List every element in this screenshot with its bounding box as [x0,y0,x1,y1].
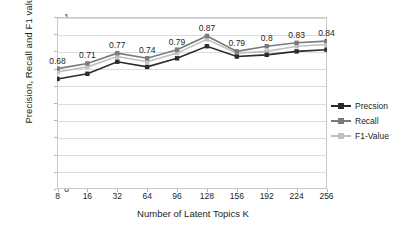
x-tick-mark [267,189,268,192]
data-point-marker [85,61,89,65]
data-point-marker [205,44,209,48]
data-label: 0.87 [199,23,216,33]
x-tick-label: 256 [307,191,347,201]
x-tick-mark [297,189,298,192]
data-point-marker [115,60,119,64]
data-point-marker [175,47,179,51]
data-point-marker [235,54,239,58]
legend-item-recall[interactable]: Recall [331,115,399,127]
data-point-marker [294,49,298,53]
data-point-marker [175,56,179,60]
data-label: 0.83 [288,30,305,40]
data-point-marker [145,65,149,69]
data-point-marker [205,34,209,38]
legend-swatch-icon [331,131,351,141]
data-point-marker [85,72,89,76]
legend: PrecsionRecallF1-Value [331,100,399,145]
x-tick-mark [237,189,238,192]
data-point-marker [145,56,149,60]
x-tick-mark [117,189,118,192]
data-label: 0.74 [139,45,156,55]
data-label: 0.68 [49,56,66,66]
legend-swatch-icon [331,101,351,111]
data-point-marker [324,47,327,51]
data-point-marker [324,39,327,43]
x-axis-title: Number of Latent Topics K [57,208,329,219]
chart-container: Precision, Recall and F1 values Number o… [0,0,402,232]
data-label: 0.71 [79,50,96,60]
x-tick-mark [87,189,88,192]
legend-swatch-icon [331,116,351,126]
data-point-marker [57,66,60,70]
data-point-marker [265,53,269,57]
legend-item-precsion[interactable]: Precsion [331,100,399,112]
legend-item-f1-value[interactable]: F1-Value [331,130,399,142]
data-point-marker [294,41,298,45]
data-point-marker [115,51,119,55]
legend-label: Recall [355,116,379,126]
x-tick-mark [147,189,148,192]
data-label: 0.79 [229,38,246,48]
data-label: 0.8 [261,33,273,43]
x-tick-mark [327,189,328,192]
data-label: 0.79 [169,37,186,47]
data-label: 0.84 [318,28,335,38]
x-tick-mark [207,189,208,192]
x-tick-mark [58,189,59,192]
data-point-marker [235,49,239,53]
data-point-marker [57,77,60,81]
data-label: 0.77 [109,40,126,50]
legend-label: F1-Value [355,131,389,141]
data-point-marker [265,44,269,48]
legend-label: Precsion [355,101,388,111]
x-tick-mark [177,189,178,192]
series-layer [57,17,327,189]
